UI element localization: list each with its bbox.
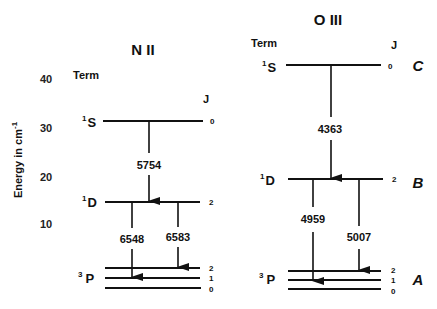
tick-30: 30 [40,122,52,134]
wavelength-label: 4959 [301,213,325,225]
term-label-3p: 3P [78,270,94,286]
term-header: Term [251,37,277,49]
wavelength-label: 5754 [137,159,162,171]
level-tag-c: C [413,57,425,74]
axis-label: Energy in cm-1 [10,121,24,198]
j-value: 1 [391,276,396,285]
j-value: 2 [391,266,396,275]
panel-n-ii: N II Term J 1S 0 5754 1D 2 6548 6583 3P … [73,41,215,294]
tick-40: 40 [40,73,52,85]
term-header: Term [73,69,99,81]
wavelength-label: 6548 [120,233,144,245]
energy-level-diagram: Energy in cm-1 40 30 20 10 N II Term J 1… [0,0,437,309]
j-header: J [391,39,397,51]
wavelength-label: 5007 [347,231,371,243]
term-label-1d: 1D [82,194,97,210]
j-value: 0 [388,62,393,71]
j-value: 0 [209,285,214,294]
ion-title: O III [314,11,342,28]
j-value: 2 [209,264,214,273]
ion-title: N II [131,41,154,58]
term-label-1d: 1D [260,172,275,188]
level-tag-a: A [412,271,424,288]
term-label-1s: 1S [262,59,276,75]
tick-10: 10 [40,218,52,230]
j-value: 0 [391,287,396,296]
wavelength-label: 4363 [318,123,342,135]
j-header: J [203,93,209,105]
term-label-1s: 1S [82,114,96,130]
tick-20: 20 [40,171,52,183]
term-label-3p: 3P [259,271,275,287]
level-tag-b: B [413,174,424,191]
j-value: 2 [392,175,397,184]
j-value: 2 [209,198,214,207]
energy-axis: Energy in cm-1 40 30 20 10 [10,73,52,230]
j-value: 1 [209,274,214,283]
wavelength-label: 6583 [166,231,190,243]
panel-o-iii: O III Term J 1S 0 C 4363 1D 2 B 4959 500… [251,11,425,296]
j-value: 0 [210,117,215,126]
